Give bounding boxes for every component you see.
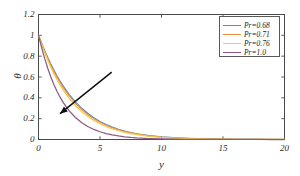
legend: Pr=0.68Pr=0.71Pr=0.76Pr=1.0 — [219, 16, 280, 57]
figure-container: 00.20.40.60.811.2 05101520 y θ Pr=0.68Pr… — [0, 0, 299, 176]
x-tick-label: 20 — [270, 143, 300, 153]
x-tick-label: 10 — [147, 143, 177, 153]
legend-swatch — [223, 52, 241, 53]
y-tick-label: 1 — [2, 30, 35, 40]
x-tick-label: 5 — [85, 143, 115, 153]
legend-item: Pr=1.0 — [220, 48, 279, 58]
legend-label: Pr=1.0 — [244, 49, 266, 57]
legend-swatch — [223, 34, 241, 35]
legend-swatch — [223, 43, 241, 44]
x-axis-title: y — [152, 158, 172, 170]
legend-label: Pr=0.76 — [244, 40, 270, 48]
y-tick-label: 0.4 — [2, 92, 35, 102]
legend-swatch — [223, 25, 241, 26]
legend-label: Pr=0.68 — [244, 22, 270, 30]
y-tick-label: 0.2 — [2, 113, 35, 123]
x-tick-label: 15 — [208, 143, 238, 153]
y-tick-label: 0.8 — [2, 51, 35, 61]
y-tick-label: 1.2 — [2, 9, 35, 19]
x-tick-label: 0 — [24, 143, 54, 153]
legend-label: Pr=0.71 — [244, 31, 270, 39]
y-axis-title: θ — [11, 64, 23, 88]
